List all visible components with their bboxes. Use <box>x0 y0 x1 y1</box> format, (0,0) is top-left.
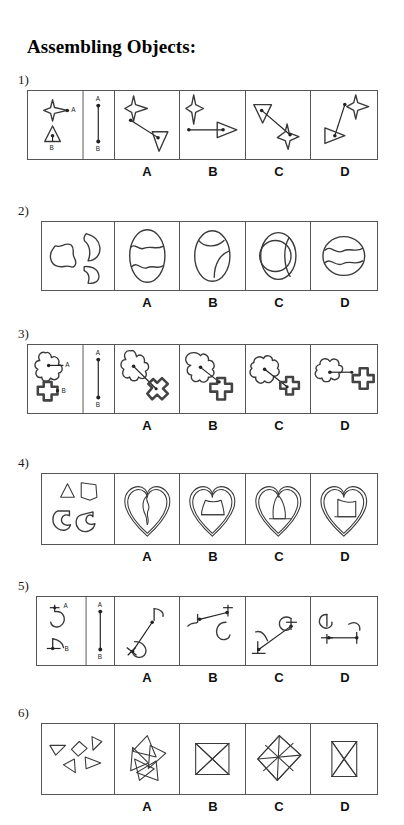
svg-text:B: B <box>64 645 68 652</box>
option-b-figure <box>180 91 245 159</box>
question-2-table <box>41 221 378 291</box>
question-number-6: 6) <box>18 705 29 721</box>
question-6-option-d[interactable] <box>311 724 377 794</box>
option-c-figure <box>246 724 311 794</box>
option-b-figure <box>180 724 245 794</box>
question-4-answer-labels: A B C D <box>114 549 378 565</box>
question-3-option-d[interactable] <box>311 345 377 413</box>
question-2-option-d[interactable] <box>311 222 377 290</box>
option-a-figure <box>115 597 180 665</box>
question-1-option-a[interactable] <box>115 91 181 159</box>
question-2-problem-figure <box>42 222 114 290</box>
question-1-problem-cell: A B A B <box>28 91 115 159</box>
question-4-option-d[interactable] <box>311 474 377 544</box>
label-b: B <box>180 670 246 686</box>
option-c-figure <box>246 222 311 290</box>
page-title: Assembling Objects: <box>27 36 196 58</box>
question-5-table: A B A B <box>36 596 378 666</box>
question-1-answer-labels: A B C D <box>114 164 378 180</box>
question-6-problem-cell <box>42 724 115 794</box>
question-3-table: A B A B <box>27 344 378 414</box>
question-2-problem-cell <box>42 222 115 290</box>
option-a-figure <box>115 345 180 413</box>
question-1-problem-figure: A B A B <box>28 91 114 159</box>
option-d-figure <box>311 597 377 665</box>
label-b: B <box>180 418 246 434</box>
question-2-option-a[interactable] <box>115 222 181 290</box>
question-5-option-c[interactable] <box>246 597 312 665</box>
question-number-4: 4) <box>18 455 29 471</box>
question-number-3: 3) <box>18 326 29 342</box>
question-4-option-b[interactable] <box>180 474 246 544</box>
label-d: D <box>312 164 378 180</box>
option-b-figure <box>180 474 245 544</box>
svg-text:A: A <box>71 106 76 113</box>
svg-text:B: B <box>98 653 102 660</box>
option-d-figure <box>311 474 377 544</box>
svg-text:A: A <box>63 602 68 609</box>
question-5-option-b[interactable] <box>180 597 246 665</box>
question-6-option-c[interactable] <box>246 724 312 794</box>
question-number-5: 5) <box>18 578 29 594</box>
label-b: B <box>180 549 246 565</box>
option-a-figure <box>115 474 180 544</box>
question-5-option-d[interactable] <box>311 597 377 665</box>
question-5-problem-figure: A B A B <box>37 597 114 665</box>
label-b: B <box>180 164 246 180</box>
question-number-1: 1) <box>18 72 29 88</box>
question-3-problem-cell: A B A B <box>28 345 115 413</box>
question-4-problem-cell <box>42 474 115 544</box>
worksheet-page: Assembling Objects: 1) A B <box>0 0 404 825</box>
question-4-problem-figure <box>42 474 114 544</box>
label-d: D <box>312 799 378 815</box>
option-c-figure <box>246 597 311 665</box>
question-6-problem-figure <box>42 724 114 794</box>
label-d: D <box>312 549 378 565</box>
question-2-option-c[interactable] <box>246 222 312 290</box>
svg-text:A: A <box>96 349 101 356</box>
label-a: A <box>114 799 180 815</box>
question-2-option-b[interactable] <box>180 222 246 290</box>
question-6-option-b[interactable] <box>180 724 246 794</box>
label-c: C <box>246 799 312 815</box>
option-c-figure <box>246 91 311 159</box>
label-c: C <box>246 670 312 686</box>
question-6-option-a[interactable] <box>115 724 181 794</box>
svg-text:A: A <box>98 601 103 608</box>
option-d-figure <box>311 222 377 290</box>
svg-text:A: A <box>65 361 70 368</box>
option-c-figure <box>246 474 311 544</box>
question-6-table <box>41 723 378 795</box>
label-b: B <box>180 799 246 815</box>
label-a: A <box>114 164 180 180</box>
label-a: A <box>114 549 180 565</box>
question-3-option-b[interactable] <box>180 345 246 413</box>
label-a: A <box>114 670 180 686</box>
question-3-option-c[interactable] <box>246 345 312 413</box>
option-a-figure <box>115 91 180 159</box>
question-5-answer-labels: A B C D <box>114 670 378 686</box>
question-1-option-d[interactable] <box>311 91 377 159</box>
label-c: C <box>246 418 312 434</box>
option-d-figure <box>311 345 377 413</box>
option-b-figure <box>180 222 245 290</box>
label-c: C <box>246 549 312 565</box>
question-3-answer-labels: A B C D <box>114 418 378 434</box>
svg-text:B: B <box>96 401 100 408</box>
question-5-option-a[interactable] <box>115 597 181 665</box>
question-number-2: 2) <box>18 203 29 219</box>
svg-text:B: B <box>61 387 65 394</box>
question-1-option-c[interactable] <box>246 91 312 159</box>
question-1-option-b[interactable] <box>180 91 246 159</box>
svg-text:B: B <box>50 144 54 151</box>
label-a: A <box>114 295 180 311</box>
question-2-answer-labels: A B C D <box>114 295 378 311</box>
question-4-option-c[interactable] <box>246 474 312 544</box>
question-1-table: A B A B <box>27 90 378 160</box>
option-a-figure <box>115 222 180 290</box>
question-5-problem-cell: A B A B <box>37 597 115 665</box>
label-c: C <box>246 295 312 311</box>
option-b-figure <box>180 345 245 413</box>
question-4-option-a[interactable] <box>115 474 181 544</box>
question-3-option-a[interactable] <box>115 345 181 413</box>
